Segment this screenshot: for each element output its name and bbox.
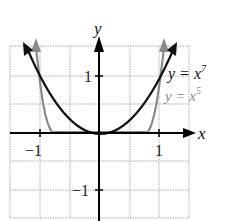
label-curve-x7-base: y = x	[166, 65, 201, 83]
tick-label-x-pos1: 1	[155, 142, 163, 159]
arrow-curve1-left	[23, 42, 33, 56]
label-curve-x7-exp: 7	[201, 63, 207, 74]
tick-label-x-neg1: −1	[25, 142, 42, 159]
y-axis-label: y	[92, 19, 102, 38]
label-curve-x5-base: y = x	[163, 88, 196, 104]
graph: y x −1 1 1 −1 y = x7 y = x5	[0, 0, 229, 221]
x-axis-label: x	[197, 124, 206, 143]
y-axis-arrow	[94, 36, 104, 52]
tick-label-y-neg1: −1	[72, 182, 89, 199]
tick-label-y-pos1: 1	[84, 68, 92, 85]
label-curve-x5-exp: 5	[196, 85, 201, 96]
label-curve-x5: y = x5	[163, 85, 201, 104]
label-curve-x7: y = x7	[166, 63, 207, 83]
